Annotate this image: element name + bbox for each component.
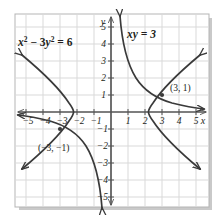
y-tick-label: 4 bbox=[101, 39, 106, 49]
coordinate-plane-svg: −5 −4 −3 −2 −1 1 2 3 4 5 5 4 3 2 1 −1 −2… bbox=[0, 0, 223, 224]
y-tick-label: −5 bbox=[97, 192, 108, 202]
x-tick-label: −2 bbox=[73, 116, 84, 126]
intersection-point-neg3-neg1 bbox=[58, 127, 62, 131]
graph-figure: −5 −4 −3 −2 −1 1 2 3 4 5 5 4 3 2 1 −1 −2… bbox=[0, 0, 223, 224]
eq-minus: − 3 bbox=[28, 36, 46, 48]
x-tick-label: 5 bbox=[194, 116, 199, 126]
y-tick-label: 1 bbox=[101, 90, 106, 100]
x-tick-label: 4 bbox=[177, 116, 182, 126]
x-axis-label: x bbox=[200, 115, 206, 126]
y-tick-label: 3 bbox=[100, 56, 106, 66]
x-tick-label: 2 bbox=[143, 116, 148, 126]
reciprocal-equation-label: xy = 3 bbox=[126, 28, 156, 41]
y-tick-label: −3 bbox=[97, 158, 108, 168]
point-label-3-1: (3, 1) bbox=[170, 83, 191, 94]
point-label-neg3-neg1: (−3, −1) bbox=[38, 143, 69, 154]
y-tick-label: −1 bbox=[97, 124, 108, 134]
y-axis-label: y bbox=[100, 16, 106, 27]
x-tick-label: 3 bbox=[159, 116, 165, 126]
eq-equals: = 6 bbox=[54, 36, 72, 48]
y-tick-label: 2 bbox=[101, 73, 106, 83]
intersection-point-3-1 bbox=[160, 93, 164, 97]
x-tick-label: 1 bbox=[126, 116, 131, 126]
y-tick-label: −2 bbox=[97, 141, 108, 151]
